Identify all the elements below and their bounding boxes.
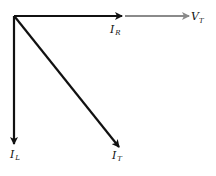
phasor-it-arrow [15, 17, 119, 147]
phasor-diagram: IR VT IL IT [0, 0, 216, 176]
svg-text:VT: VT [191, 10, 205, 25]
phasor-vt: VT [125, 10, 205, 25]
phasor-it-symbol: I [111, 149, 117, 162]
phasor-it-subscript: T [117, 155, 123, 163]
phasor-il-subscript: L [14, 154, 20, 162]
svg-text:IT: IT [111, 149, 123, 163]
phasor-il: IL [9, 16, 20, 162]
phasor-vt-subscript: T [199, 17, 205, 25]
phasor-ir-symbol: I [109, 23, 115, 36]
phasor-ir: IR [14, 16, 122, 37]
phasor-it: IT [15, 17, 123, 163]
svg-text:IR: IR [109, 23, 121, 37]
phasor-il-symbol: I [9, 148, 15, 161]
phasor-ir-subscript: R [114, 29, 121, 37]
svg-text:IL: IL [9, 148, 20, 162]
